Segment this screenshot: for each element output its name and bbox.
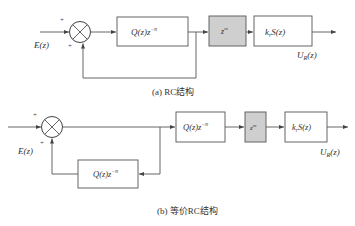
diagram-b: + E(z) + Q(z)z−N zm krS(z) — [8, 111, 348, 216]
rc-structure-diagram: + E(z) + Q(z)z−N zm — [0, 0, 355, 226]
summing-junction-icon-a — [70, 22, 91, 43]
caption-a: (a) RC结构 — [152, 86, 194, 97]
zm-block-a: zm — [209, 16, 246, 46]
zm-block-b: zm — [245, 112, 266, 142]
output-label-a: UR(z) — [297, 50, 317, 61]
caption-b: (b) 等价RC结构 — [157, 205, 218, 216]
svg-text:krS(z): krS(z) — [265, 27, 285, 38]
q-block-b: Q(z)z−N — [176, 112, 225, 142]
branch-to-feedback-b — [139, 127, 160, 174]
input-label-b: E(z) — [17, 146, 33, 156]
output-label-b: UR(z) — [320, 147, 340, 158]
summing-junction-icon-b — [42, 117, 63, 138]
svg-text:krS(z): krS(z) — [292, 122, 311, 133]
plus-sign-bottom-a: + — [68, 42, 72, 50]
krs-block-a: krS(z) — [254, 16, 312, 46]
plus-sign-top-a: + — [60, 16, 64, 24]
plus-sign-top-b: + — [33, 111, 37, 119]
feedback-q-block-b: Q(z)z−N — [78, 160, 138, 188]
diagram-a: + E(z) + Q(z)z−N zm — [33, 16, 336, 97]
q-block-a: Q(z)z−N — [117, 17, 188, 46]
feedback-path-b — [52, 139, 78, 175]
input-label-a: E(z) — [33, 40, 49, 50]
plus-sign-bottom-b: + — [40, 139, 44, 147]
krs-block-b: krS(z) — [285, 112, 327, 142]
